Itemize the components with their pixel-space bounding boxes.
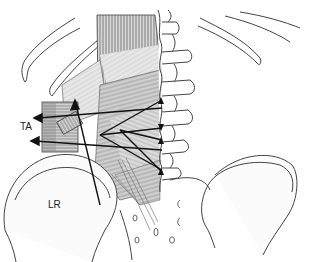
- vertebral-column: [158, 10, 195, 192]
- sacral-foramina: [133, 200, 180, 243]
- anatomy-svg: [0, 0, 312, 262]
- ribs-right: [198, 12, 300, 65]
- anatomy-illustration: TA LR: [0, 0, 312, 262]
- label-ta: TA: [20, 121, 32, 132]
- label-lr: LR: [48, 199, 61, 210]
